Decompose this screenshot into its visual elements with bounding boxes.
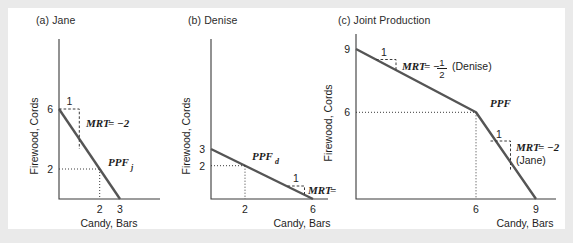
panel-b-ppf-subscript: d	[275, 157, 280, 166]
panel-c-ppf-label: PPF	[490, 97, 511, 109]
panel-denise: (b) Denise Firewood, Cords 1 MRT = − 1 2…	[168, 8, 338, 229]
panel-b-run-label: 1	[293, 172, 299, 184]
panel-c-xtick-6: 6	[473, 203, 479, 215]
panel-a-run-label: 1	[67, 95, 73, 107]
panel-a-x-axis-label: Candy, Bars	[81, 217, 138, 229]
panel-c-jane-mrt-value: = −2	[538, 141, 560, 153]
panel-c-ytick-9: 9	[344, 43, 350, 55]
panel-joint-production: (c) Joint Production Firewood, Cords 1 M…	[318, 8, 565, 229]
panel-c-jane-who: (Jane)	[516, 154, 546, 166]
figure-container: (a) Jane Firewood, Cords 1 MRT = −2 PPF …	[8, 8, 565, 229]
panel-a-ppf-label: PPF	[108, 156, 129, 168]
panel-c-chart: Firewood, Cords 1 MRT = − 1 2 (Denise) 1…	[318, 8, 565, 229]
panel-b-ytick-2: 2	[199, 160, 205, 172]
panel-c-x-axis-label: Candy, Bars	[497, 217, 554, 229]
panel-c-denise-run-label: 1	[381, 46, 387, 58]
panel-c-jane-slope-triangle	[491, 141, 511, 170]
panel-a-y-axis-label: Firewood, Cords	[28, 97, 40, 174]
panel-c-xtick-9: 9	[533, 203, 539, 215]
panel-a-ytick-2: 2	[47, 163, 53, 175]
panel-c-ytick-6: 6	[344, 106, 350, 118]
panel-c-axes	[356, 34, 556, 199]
panel-c-denise-mrt-denominator: 2	[439, 69, 444, 80]
panel-a-ppf-subscript: j	[129, 163, 134, 172]
panel-b-xtick-2: 2	[242, 203, 248, 215]
panel-b-y-axis-label: Firewood, Cords	[180, 97, 192, 174]
panel-c-denise-mrt-numerator: 1	[439, 57, 444, 68]
panel-a-chart: Firewood, Cords 1 MRT = −2 PPF j 6 2 2 3	[8, 8, 178, 229]
panel-c-denise-mrt-equals: = −	[424, 60, 440, 72]
panel-a-xtick-2: 2	[97, 203, 103, 215]
panel-a-mrt-value: = −2	[108, 117, 130, 129]
panel-a-ytick-6: 6	[47, 103, 53, 115]
panel-c-jane-run-label: 1	[496, 128, 502, 140]
panel-b-ppf-label: PPF	[252, 150, 273, 162]
panel-b-chart: Firewood, Cords 1 MRT = − 1 2 PPF d 3 2	[168, 8, 338, 229]
panel-jane: (a) Jane Firewood, Cords 1 MRT = −2 PPF …	[8, 8, 178, 229]
panel-c-y-axis-label: Firewood, Cords	[322, 84, 334, 161]
panel-b-xtick-6: 6	[310, 203, 316, 215]
panel-b-axes	[211, 39, 328, 199]
panel-b-ytick-3: 3	[199, 143, 205, 155]
panel-a-xtick-3: 3	[117, 203, 123, 215]
panel-c-denise-who: (Denise)	[452, 60, 492, 72]
panel-c-ppf-line	[356, 49, 536, 199]
